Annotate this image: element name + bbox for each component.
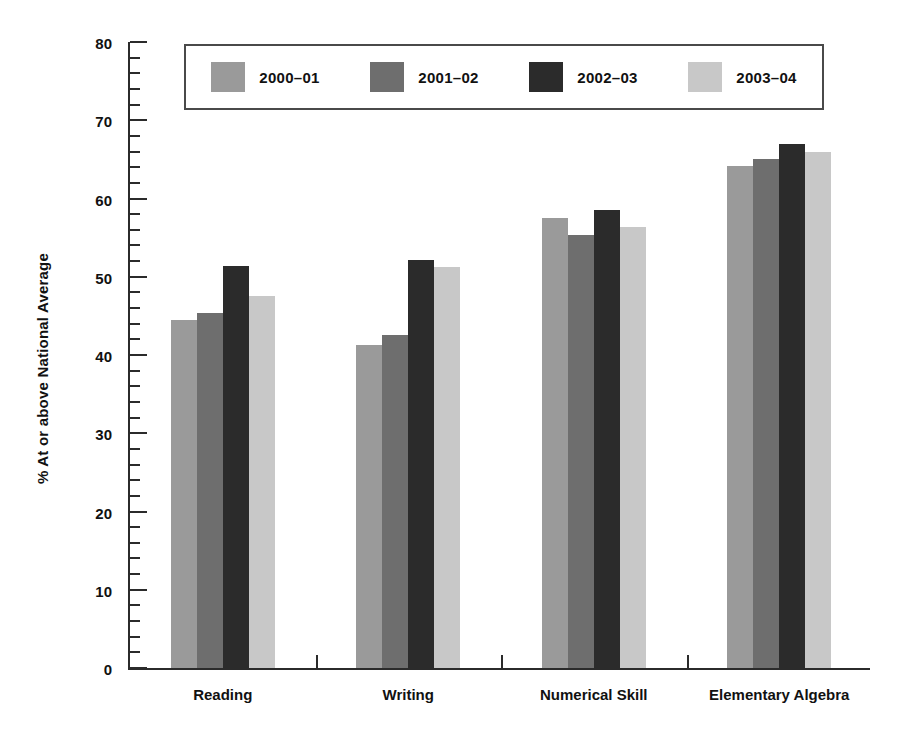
y-tick-label: 70	[95, 113, 112, 130]
legend-label-2001-02: 2001–02	[418, 69, 479, 86]
group-divider-tick	[316, 655, 318, 668]
bar[interactable]	[620, 227, 646, 668]
legend-label-2002-03: 2002–03	[577, 69, 638, 86]
legend-label-2003-04: 2003–04	[736, 69, 797, 86]
bar[interactable]	[727, 166, 753, 668]
y-tick-label: 0	[104, 661, 112, 678]
x-axis-category-label: Numerical Skill	[540, 686, 648, 703]
x-axis-category-label: Elementary Algebra	[709, 686, 849, 703]
bar[interactable]	[434, 267, 460, 668]
legend-item[interactable]: 2002–03	[529, 62, 638, 92]
legend-swatch-2003-04	[688, 62, 722, 92]
legend: 2000–01 2001–02 2002–03 2003–04	[184, 44, 824, 110]
legend-item[interactable]: 2003–04	[688, 62, 797, 92]
bar-group: Writing	[356, 42, 460, 668]
y-tick-label: 50	[95, 269, 112, 286]
bar-group: Reading	[171, 42, 275, 668]
bar[interactable]	[356, 345, 382, 668]
plot-area: 01020304050607080 ReadingWritingNumerica…	[128, 42, 870, 670]
bar-group: Elementary Algebra	[727, 42, 831, 668]
x-axis-category-label: Reading	[193, 686, 252, 703]
legend-swatch-2002-03	[529, 62, 563, 92]
bar[interactable]	[568, 235, 594, 668]
legend-swatch-2001-02	[370, 62, 404, 92]
x-axis-category-label: Writing	[383, 686, 434, 703]
bar[interactable]	[249, 296, 275, 668]
y-tick-label: 80	[95, 35, 112, 52]
y-tick-label: 20	[95, 504, 112, 521]
bar[interactable]	[805, 152, 831, 668]
bar[interactable]	[382, 335, 408, 668]
legend-label-2000-01: 2000–01	[259, 69, 320, 86]
y-axis-title: % At or above National Average	[34, 209, 51, 529]
bar[interactable]	[542, 218, 568, 668]
y-tick-label: 40	[95, 348, 112, 365]
legend-item[interactable]: 2000–01	[211, 62, 320, 92]
y-tick-label: 10	[95, 582, 112, 599]
bar-group: Numerical Skill	[542, 42, 646, 668]
x-axis-line	[128, 668, 870, 670]
y-tick-label: 60	[95, 191, 112, 208]
group-divider-tick	[687, 655, 689, 668]
bar-groups: ReadingWritingNumerical SkillElementary …	[130, 42, 870, 668]
bar[interactable]	[197, 313, 223, 668]
bar[interactable]	[753, 159, 779, 668]
bar[interactable]	[408, 260, 434, 668]
bar[interactable]	[171, 320, 197, 668]
group-divider-tick	[501, 655, 503, 668]
bar[interactable]	[594, 210, 620, 668]
y-tick-label: 30	[95, 426, 112, 443]
legend-item[interactable]: 2001–02	[370, 62, 479, 92]
bar-chart: % At or above National Average 010203040…	[0, 0, 899, 742]
legend-swatch-2000-01	[211, 62, 245, 92]
bar[interactable]	[223, 266, 249, 668]
bar[interactable]	[779, 144, 805, 668]
